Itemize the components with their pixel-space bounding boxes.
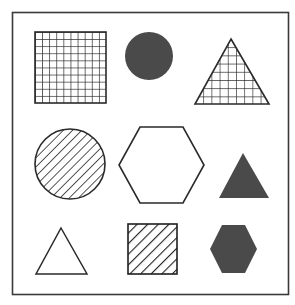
shapes-figure [0,0,295,305]
hatched-square [128,224,177,274]
hatched-circle [35,129,105,199]
grid-square [35,32,106,103]
solid-circle [125,32,173,80]
